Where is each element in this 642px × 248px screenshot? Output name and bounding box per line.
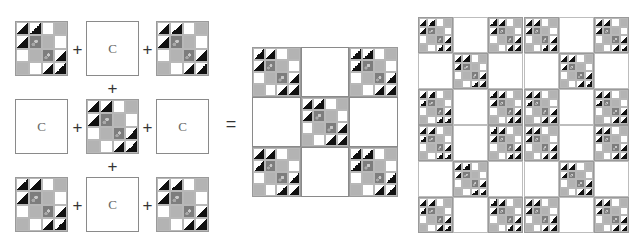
assembled-plain-block	[349, 97, 398, 147]
print-square	[183, 49, 196, 62]
white-square	[549, 27, 557, 36]
half-square-triangle	[350, 160, 362, 172]
pieced-block	[156, 177, 209, 232]
white-square	[157, 205, 170, 218]
print-square	[603, 27, 611, 36]
print-square	[362, 60, 374, 72]
half-square-triangle	[454, 162, 462, 171]
quilt-plain-block	[559, 89, 594, 125]
half-square-triangle	[454, 54, 462, 63]
white-square	[427, 224, 435, 233]
print-square	[427, 135, 435, 144]
half-square-triangle	[100, 100, 113, 113]
quilt-pieced-block	[488, 89, 523, 125]
half-square-triangle	[595, 207, 603, 216]
white-square	[16, 205, 29, 218]
half-square-triangle	[489, 207, 497, 216]
gray-square	[620, 126, 628, 135]
half-square-triangle	[183, 218, 196, 231]
gray-square	[419, 224, 427, 233]
half-square-triangle	[16, 191, 29, 204]
print-square	[506, 143, 514, 152]
half-square-triangle	[514, 107, 522, 116]
gray-square	[525, 44, 533, 53]
gray-square	[595, 152, 603, 161]
half-square-triangle	[54, 218, 67, 231]
white-square	[462, 188, 470, 197]
white-square	[533, 44, 541, 53]
white-square	[444, 207, 452, 216]
white-square	[195, 35, 208, 48]
white-square	[170, 62, 183, 75]
gray-square	[87, 140, 100, 153]
quilt-pieced-block	[418, 197, 453, 233]
half-square-triangle	[42, 218, 55, 231]
half-square-triangle	[620, 116, 628, 125]
white-square	[595, 35, 603, 44]
quilt-pieced-block	[524, 89, 559, 125]
white-square	[157, 49, 170, 62]
half-square-triangle	[87, 113, 100, 126]
half-square-triangle	[595, 90, 603, 99]
half-square-triangle	[506, 224, 514, 233]
gray-square	[125, 100, 138, 113]
plus-sign: +	[108, 158, 118, 175]
plain-block-label: C	[37, 119, 46, 135]
white-square	[541, 18, 549, 27]
print-square	[498, 99, 506, 108]
white-square	[436, 198, 444, 207]
gray-square	[549, 126, 557, 135]
white-square	[603, 116, 611, 125]
print-square	[170, 35, 183, 48]
gray-square	[514, 126, 522, 135]
white-square	[471, 162, 479, 171]
white-square	[603, 152, 611, 161]
gray-square	[595, 224, 603, 233]
quilt-plain-block	[453, 17, 488, 53]
half-square-triangle	[170, 22, 183, 35]
half-square-triangle	[454, 171, 462, 180]
white-square	[611, 18, 619, 27]
gray-square	[611, 27, 619, 36]
half-square-triangle	[603, 90, 611, 99]
white-square	[54, 35, 67, 48]
half-square-triangle	[514, 35, 522, 44]
half-square-triangle	[489, 198, 497, 207]
white-square	[506, 90, 514, 99]
gray-square	[427, 35, 435, 44]
gray-square	[620, 198, 628, 207]
print-square	[313, 110, 325, 122]
gray-square	[54, 178, 67, 191]
half-square-triangle	[337, 134, 349, 146]
plus-sign: +	[73, 40, 83, 57]
quilt-pieced-block	[524, 17, 559, 53]
half-square-triangle	[195, 218, 208, 231]
gray-square	[506, 207, 514, 216]
gray-square	[42, 191, 55, 204]
white-square	[462, 80, 470, 89]
white-square	[337, 110, 349, 122]
gray-square	[265, 172, 277, 184]
half-square-triangle	[462, 54, 470, 63]
print-square	[541, 107, 549, 116]
half-square-triangle	[16, 35, 29, 48]
print-square	[603, 135, 611, 144]
print-square	[498, 27, 506, 36]
half-square-triangle	[313, 98, 325, 110]
print-square	[506, 107, 514, 116]
white-square	[595, 215, 603, 224]
half-square-triangle	[462, 162, 470, 171]
half-square-triangle	[541, 152, 549, 161]
gray-square	[157, 62, 170, 75]
quilt-pieced-block	[559, 161, 594, 197]
plain-block-c: C	[156, 99, 209, 154]
half-square-triangle	[595, 126, 603, 135]
half-square-triangle	[533, 126, 541, 135]
half-square-triangle	[427, 126, 435, 135]
gray-square	[427, 143, 435, 152]
white-square	[533, 116, 541, 125]
quilt-plain-block	[524, 53, 559, 89]
print-square	[462, 171, 470, 180]
gray-square	[533, 107, 541, 116]
half-square-triangle	[595, 135, 603, 144]
